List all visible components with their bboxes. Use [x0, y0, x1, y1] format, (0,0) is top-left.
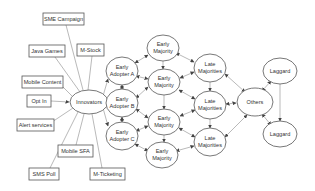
node-label-line2: Majority	[152, 155, 172, 161]
node-label-line1: Late	[205, 98, 216, 104]
service-sme-campaign: SME Campaign	[43, 13, 84, 25]
service-opt-in: Opt In	[27, 95, 51, 107]
node-label-line1: Early	[156, 148, 169, 154]
node-label-line2: Majority	[154, 122, 174, 128]
node-label-line2: Majorities	[198, 142, 222, 148]
node-early-adopter-c: Early Adopter C	[106, 122, 138, 150]
service-label: M-Ticketing	[93, 171, 122, 177]
node-label-line2: Adopter C	[109, 136, 134, 142]
node-laggard-2: Laggard	[263, 121, 297, 147]
service-m-ticketing: M-Ticketing	[90, 168, 125, 180]
service-label: Mobile Content	[24, 79, 62, 85]
node-label-line2: Majority	[153, 48, 173, 54]
service-label: Opt In	[31, 98, 46, 104]
node-early-adopter-a: Early Adopter A	[106, 57, 138, 85]
node-label: Innovators	[76, 99, 102, 105]
node-early-adopter-b: Early Adopter B	[106, 89, 138, 117]
node-others: Others	[237, 88, 273, 116]
node-label-line2: Majorities	[198, 105, 222, 111]
node-label: Laggard	[270, 131, 291, 137]
service-label: SME Campaign	[44, 16, 83, 22]
node-label-line2: Majorities	[198, 68, 222, 74]
service-mobile-sfa: Mobile SFA	[58, 145, 93, 157]
service-label: Mobile SFA	[61, 148, 90, 154]
service-java-games: Java Games	[29, 45, 65, 57]
service-label: Alert services	[19, 122, 53, 128]
node-label-line2: Adopter A	[110, 71, 135, 77]
service-alert-services: Alert services	[17, 119, 54, 131]
node-label: Others	[247, 99, 264, 105]
node-late-majorities-3: Late Majorities	[194, 128, 226, 156]
node-label-line1: Late	[205, 135, 216, 141]
node-late-majorities-1: Late Majorities	[194, 54, 226, 82]
node-label-line1: Late	[205, 61, 216, 67]
node-label-line1: Early	[116, 64, 129, 70]
node-laggard-1: Laggard	[263, 58, 297, 84]
service-sms-poll: SMS Poll	[29, 168, 59, 180]
node-early-majority-4: Early Majority	[146, 142, 178, 168]
service-mobile-content: Mobile Content	[22, 76, 63, 88]
node-late-majorities-2: Late Majorities	[194, 91, 226, 119]
node-label: Laggard	[270, 68, 291, 74]
service-label: SMS Poll	[32, 171, 55, 177]
node-label-line1: Early	[116, 129, 129, 135]
service-m-stock: M-Stock	[77, 44, 104, 56]
service-label: M-Stock	[80, 47, 101, 53]
node-early-majority-3: Early Majority	[148, 109, 180, 135]
node-label-line1: Early	[116, 96, 129, 102]
node-early-majority-1: Early Majority	[147, 35, 179, 61]
service-label: Java Games	[31, 48, 63, 54]
diffusion-diagram: SME Campaign Java Games M-Stock Mobile C…	[0, 0, 315, 191]
node-label-line2: Adopter B	[110, 103, 135, 109]
node-early-majority-2: Early Majority	[148, 69, 180, 95]
node-label-line1: Early	[157, 41, 170, 47]
node-innovators: Innovators	[70, 90, 108, 114]
node-label-line1: Early	[158, 75, 171, 81]
node-label-line1: Early	[158, 115, 171, 121]
node-label-line2: Majority	[154, 82, 174, 88]
